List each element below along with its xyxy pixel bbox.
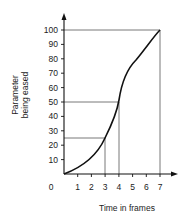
y-tick-label: 90 (49, 39, 59, 49)
x-tick-label: 7 (158, 182, 163, 192)
y-tick-labels: 10 20 30 40 50 60 70 80 90 100 (44, 25, 58, 165)
y-axis-title-line-1: Parameter (10, 75, 20, 115)
x-tick-label: 1 (75, 182, 80, 192)
y-tick-label: 40 (49, 111, 59, 121)
x-tick-label: 6 (144, 182, 149, 192)
x-tick-label: 4 (117, 182, 122, 192)
y-tick-label: 60 (49, 83, 59, 93)
x-tick-labels: 0 1 2 3 4 5 6 7 (49, 182, 163, 192)
x-axis-title: Time in frames (99, 203, 155, 213)
x-tick-label: 5 (130, 182, 135, 192)
y-tick-label: 30 (49, 126, 59, 136)
origin-label: 0 (49, 182, 54, 192)
y-axis-arrow-icon (62, 13, 67, 20)
y-tick-label: 10 (49, 155, 59, 165)
y-tick-label: 80 (49, 54, 59, 64)
ease-chart: 10 20 30 40 50 60 70 80 90 100 0 1 2 3 4… (0, 0, 187, 218)
y-tick-label: 70 (49, 68, 59, 78)
x-tick-label: 3 (103, 182, 108, 192)
y-axis-title: Parameter being eased (10, 72, 30, 119)
x-tick-label: 2 (89, 182, 94, 192)
y-tick-label: 100 (44, 25, 58, 35)
y-tick-label: 50 (49, 97, 59, 107)
y-axis-title-line-2: being eased (20, 72, 30, 119)
x-axis-arrow-icon (171, 172, 178, 177)
y-tick-label: 20 (49, 140, 59, 150)
reference-lines (64, 30, 160, 174)
